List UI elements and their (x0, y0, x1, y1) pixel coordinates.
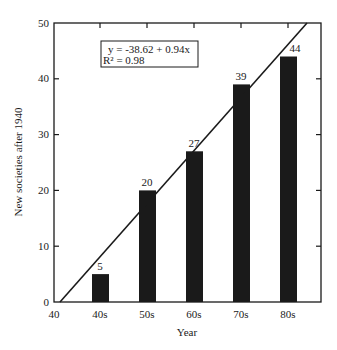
xtick-80s: 80s (280, 308, 295, 320)
bars (92, 57, 297, 303)
value-label-50s: 20 (142, 176, 154, 188)
ytick-30: 30 (38, 128, 50, 140)
ytick-0: 0 (44, 296, 50, 308)
value-label-40s: 5 (97, 260, 103, 272)
xtick-60s: 60s (186, 308, 201, 320)
value-label-70s: 39 (236, 70, 248, 82)
value-label-80s: 44 (290, 42, 302, 54)
bar-40s (92, 274, 109, 302)
xtick-50s: 50s (139, 308, 154, 320)
value-label-60s: 27 (189, 137, 201, 149)
ytick-20: 20 (38, 184, 50, 196)
r-squared-text: R² = 0.98 (103, 54, 145, 66)
bar-80s (280, 57, 297, 303)
xtick-origin: 40 (49, 308, 61, 320)
chart-canvas: 0 10 20 30 40 50 New societies after 194… (0, 0, 337, 350)
xtick-40s: 40s (92, 308, 107, 320)
ytick-10: 10 (38, 240, 50, 252)
xtick-70s: 70s (233, 308, 248, 320)
x-axis-title: Year (177, 326, 198, 338)
bar-50s (139, 190, 156, 302)
bar-60s (186, 151, 203, 302)
x-axis-tick-labels: 40 40s 50s 60s 70s 80s (49, 308, 296, 320)
ytick-40: 40 (38, 72, 50, 84)
ytick-50: 50 (38, 17, 50, 29)
y-axis-tick-labels: 0 10 20 30 40 50 (38, 17, 50, 308)
y-axis-title: New societies after 1940 (12, 107, 24, 217)
regression-equation-box: y = -38.62 + 0.94x R² = 0.98 (101, 41, 198, 67)
bar-70s (233, 84, 250, 302)
